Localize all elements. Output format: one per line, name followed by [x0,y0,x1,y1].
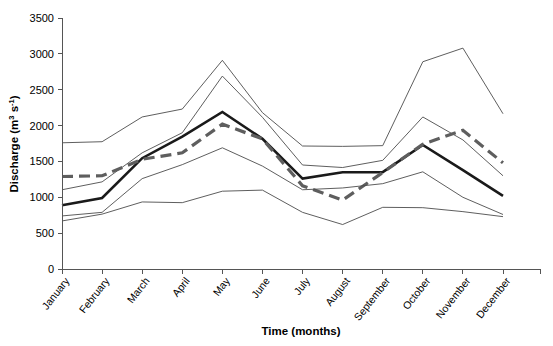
x-axis-title: Time (months) [261,325,340,337]
y-tick-label-1000: 1000 [30,191,54,203]
x-tick-label-january: January [39,274,72,311]
x-tick-label-june: June [249,275,273,300]
axes-group [62,18,540,269]
x-tick-label-july: July [291,274,312,297]
data-series-group [62,48,503,224]
y-tick-label-1500: 1500 [30,155,54,167]
y-axis-title: Discharge (m3 s-1) [7,95,20,192]
x-axis-ticks: JanuaryFebruaryMarchAprilMayJuneJulyAugu… [39,269,540,323]
x-tick-label-february: February [76,274,112,315]
x-tick-label-september: September [351,274,392,322]
x-tick-label-april: April [169,275,191,299]
x-tick-label-may: May [210,274,232,298]
discharge-line-chart: 0500100015002000250030003500 JanuaryFebr… [0,0,553,346]
y-axis-ticks: 0500100015002000250030003500 [30,12,62,275]
chart-container: 0500100015002000250030003500 JanuaryFebr… [0,0,553,346]
series-lower-envelope-thin [62,190,503,224]
y-tick-label-500: 500 [36,227,54,239]
series-upper-envelope-thin [62,48,503,146]
y-tick-label-3000: 3000 [30,48,54,60]
x-tick-label-august: August [323,275,353,308]
y-tick-label-2500: 2500 [30,84,54,96]
x-tick-label-october: October [400,274,433,311]
x-tick-label-march: March [124,275,152,306]
y-tick-label-0: 0 [48,263,54,275]
x-tick-label-november: November [433,274,473,320]
series-median-dashed [62,124,503,200]
x-tick-label-december: December [473,274,513,320]
y-tick-label-2000: 2000 [30,120,54,132]
y-tick-label-3500: 3500 [30,12,54,24]
